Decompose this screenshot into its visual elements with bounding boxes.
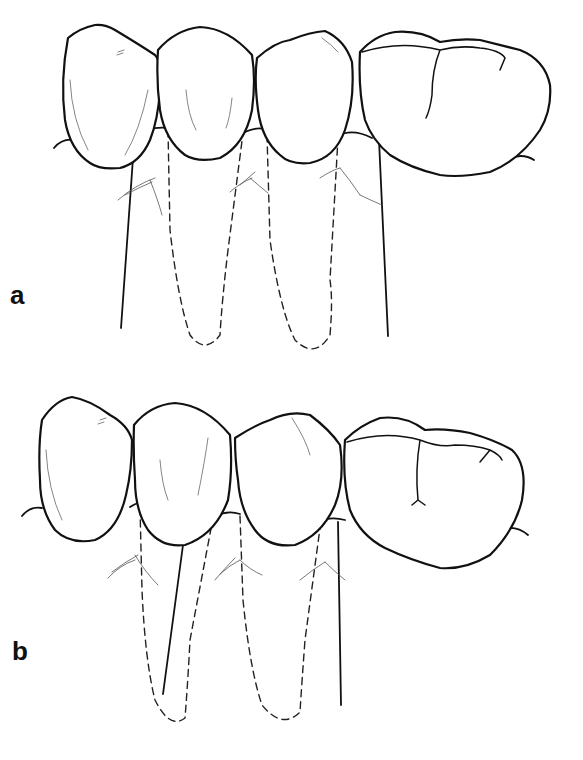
- root-outline-a-2: [267, 135, 338, 349]
- tooth-a-1: [63, 25, 160, 169]
- dental-illustration: [0, 0, 583, 760]
- axis-line-a-left: [121, 158, 133, 328]
- axis-line-b-left: [163, 545, 183, 694]
- tooth-b-molar: [344, 418, 523, 569]
- panel-a: [54, 25, 550, 349]
- root-outline-b-2: [240, 516, 320, 720]
- tooth-b-1: [39, 397, 132, 541]
- hatching-a: [118, 168, 382, 215]
- tooth-a-3: [256, 31, 353, 163]
- root-outline-a-1: [168, 130, 243, 345]
- tooth-a-molar: [360, 32, 551, 176]
- tooth-a-2: [157, 27, 254, 160]
- axis-line-a-right: [379, 140, 388, 336]
- panel-b: [22, 397, 528, 721]
- tooth-b-2: [134, 403, 231, 545]
- axis-line-b-right: [338, 522, 341, 705]
- tooth-b-3: [235, 413, 342, 545]
- hatching-b: [108, 555, 345, 585]
